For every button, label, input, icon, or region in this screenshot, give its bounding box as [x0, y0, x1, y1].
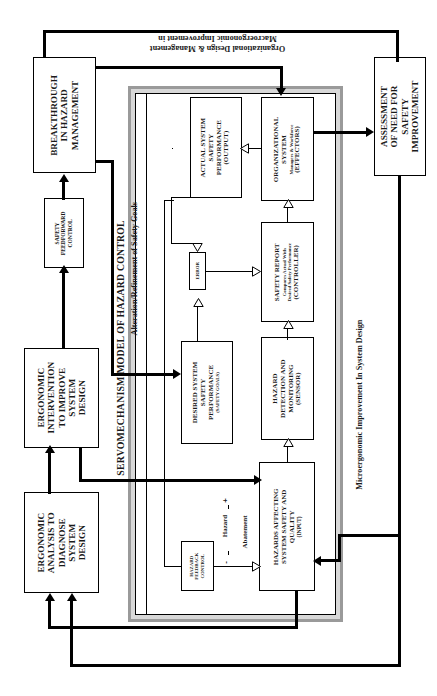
arrow-error-to-safety-report: [252, 266, 261, 277]
conn-hazard-feedback-loop-top: [164, 200, 174, 201]
arrow-bottom-feedback1-to-analysis: [45, 593, 55, 601]
box-organizational-system[interactable]: ORGANIZATIONAL SYSTEM Managers & Workfor…: [261, 97, 314, 201]
arrow-alteration-to-desired-system: [173, 369, 181, 379]
box-safety-feedforward-label: SAFETY FEEDFORWARD CONTROL: [55, 211, 74, 255]
servo-panel-inner-border-left: [146, 93, 147, 615]
box-error[interactable]: ERROR: [189, 252, 206, 290]
box-desired-system[interactable]: DESIRED SYSTEM SAFETY PERFORMANCE (SAFET…: [181, 341, 233, 444]
box-desired-system-line3: PERFORMANCE: [208, 362, 216, 424]
conn-bottom-feedback1-horizontal: [48, 626, 298, 629]
arrow-intervention-to-input: [254, 475, 262, 485]
conn-macro-vertical-down: [280, 66, 283, 90]
label-macroergonomic: Organizational Design & Management Macro…: [110, 33, 325, 53]
box-safety-report-line2: (CONTROLLER): [293, 243, 301, 302]
diagram-canvas: SERVOMECHANISM MODEL OF HAZARD CONTROL B…: [0, 0, 437, 696]
conn-error-to-safety-report: [206, 271, 256, 272]
conn-hazard-feedback-loop-bottom: [164, 566, 182, 567]
arrow-actual-to-error: [192, 243, 203, 252]
conn-bottom-feedback2-horizontal: [70, 664, 401, 667]
arrow-org-to-actual: [240, 143, 249, 154]
box-ergonomic-analysis[interactable]: ERGONOMIC ANALYSIS TO DIAGNOSE SYSTEM DE…: [24, 492, 99, 593]
conn-assessment-bottom-vertical: [398, 176, 401, 667]
box-safety-report-line1: SAFETY REPORT: [274, 243, 282, 302]
conn-assessment-to-top-vert: [396, 30, 399, 62]
conn-panel-to-assessment: [314, 131, 370, 134]
conn-alteration-vertical: [111, 160, 114, 376]
arrow-micro-to-input: [313, 556, 321, 566]
box-error-label: ERROR: [195, 262, 200, 280]
sign-plus: +: [221, 498, 230, 503]
box-hazard-detection-line4: (SENSOR): [295, 359, 303, 418]
box-organizational-system-text: ORGANIZATIONAL SYSTEM Managers & Workfor…: [273, 116, 302, 182]
arrow-detection-to-safety-report: [283, 320, 294, 329]
label-microergonomic: Microergonomic Improvement In System Des…: [355, 290, 364, 520]
conn-sign-tick-plus: [228, 505, 229, 509]
box-hazards-affecting-line4: (INPUT): [296, 488, 302, 565]
box-actual-system-text: ACTUAL SYSTEM SAFETY PERFORMANCE (OUTPUT…: [200, 118, 231, 178]
conn-actual-feedback-vert: [171, 197, 172, 244]
label-macroergonomic-line1: Macroergonomic Improvement in: [110, 33, 325, 43]
box-actual-system[interactable]: ACTUAL SYSTEM SAFETY PERFORMANCE (OUTPUT…: [190, 97, 242, 198]
arrow-panel-to-assessment: [366, 127, 374, 137]
box-organizational-system-line3: (EFFECTORS): [294, 116, 302, 182]
label-macroergonomic-line2: Organizational Design & Management: [110, 43, 325, 53]
arrow-feedback-to-input: [252, 561, 261, 572]
box-hazard-feedback-text: HAZARD FEEDBACK CONTROL: [189, 550, 205, 581]
label-hazard: Hazard: [221, 504, 229, 548]
conn-actual-down-vert: [172, 148, 173, 149]
box-safety-report[interactable]: SAFETY REPORT Compares Actual With Desir…: [261, 222, 314, 322]
box-actual-system-line4: (OUTPUT): [224, 118, 232, 178]
conn-intervention-to-input-horizontal: [79, 479, 257, 482]
conn-micro-horizontal-b: [320, 559, 341, 562]
arrow-bottom-feedback2-to-analysis: [67, 593, 77, 601]
box-ergonomic-analysis-label: ERGONOMIC ANALYSIS TO DIAGNOSE SYSTEM DE…: [36, 506, 87, 579]
box-ergonomic-intervention-label: ERGONOMIC INTERVENTION TO IMPROVE SYSTEM…: [36, 361, 87, 434]
box-ergonomic-intervention[interactable]: ERGONOMIC INTERVENTION TO IMPROVE SYSTEM…: [24, 348, 99, 448]
box-breakthrough[interactable]: BREAKTHROUGH IN HAZARD MANAGEMENT: [33, 57, 96, 173]
label-alteration: Alteration/Refinement of Safety Goals: [130, 169, 139, 369]
conn-micro-vertical: [338, 534, 341, 562]
conn-top-horizontal: [43, 30, 399, 33]
arrow-feedforward-to-breakthrough: [59, 174, 69, 182]
conn-org-to-actual: [248, 148, 262, 149]
box-hazards-affecting-line3: QUALITY: [288, 488, 296, 565]
box-hazards-affecting-text: HAZARDS AFFECTING SYSTEM SAFETY AND QUAL…: [272, 488, 302, 565]
conn-bottom-feedback1-up: [48, 601, 51, 629]
conn-intervention-right-down: [79, 448, 82, 481]
box-safety-report-text: SAFETY REPORT Compares Actual With Desir…: [274, 243, 301, 302]
box-hazard-detection-text: HAZARD DETECTION AND MONITORING (SENSOR): [272, 359, 303, 418]
box-hazard-detection[interactable]: HAZARD DETECTION AND MONITORING (SENSOR): [261, 337, 314, 440]
box-desired-system-text: DESIRED SYSTEM SAFETY PERFORMANCE (SAFET…: [193, 362, 222, 424]
sign-minus: -: [221, 561, 230, 564]
arrow-intervention-to-feedforward: [59, 265, 69, 273]
conn-actual-left-horizontal: [171, 197, 191, 198]
label-abatement: Abatement: [241, 504, 249, 560]
arrow-macro-to-organizational: [276, 88, 286, 96]
servo-panel-title: SERVOMECHANISM MODEL OF HAZARD CONTROL: [115, 226, 126, 476]
box-hazard-feedback[interactable]: HAZARD FEEDBACK CONTROL: [181, 541, 214, 591]
box-breakthrough-label: BREAKTHROUGH IN HAZARD MANAGEMENT: [49, 75, 80, 156]
conn-intervention-to-feedforward: [62, 272, 65, 348]
conn-feedforward-to-breakthrough: [62, 182, 65, 200]
conn-top-down-to-breakthrough: [43, 30, 46, 58]
arrow-safety-report-to-org: [283, 199, 294, 208]
conn-sign-tick-minus: [228, 551, 229, 555]
arrow-analysis-to-intervention: [45, 445, 55, 453]
conn-bottom-feedback2-up: [70, 601, 73, 667]
box-safety-feedforward[interactable]: SAFETY FEEDFORWARD CONTROL: [44, 198, 84, 268]
conn-micro-horizontal: [338, 534, 400, 537]
conn-feedback-to-input: [214, 566, 256, 567]
box-hazard-feedback-line3: CONTROL: [200, 550, 205, 581]
conn-input-bottom-vertical: [295, 591, 298, 629]
box-assessment[interactable]: ASSESSMENT OF NEED FOR SAFETY IMPROVEMEN…: [374, 57, 426, 176]
arrow-desired-to-error: [193, 298, 204, 307]
arrow-input-to-detection: [283, 438, 294, 447]
box-organizational-system-line2: SYSTEM: [281, 116, 289, 182]
conn-macro-horizontal: [96, 66, 283, 69]
conn-analysis-to-intervention: [48, 452, 51, 494]
conn-desired-up-vert: [197, 304, 198, 342]
box-hazards-affecting[interactable]: HAZARDS AFFECTING SYSTEM SAFETY AND QUAL…: [259, 462, 315, 591]
box-desired-system-line4: (SAFETY GOALS): [216, 362, 221, 424]
box-assessment-label: ASSESSMENT OF NEED FOR SAFETY IMPROVEMEN…: [379, 81, 420, 153]
conn-hazard-feedback-loop-vert: [164, 200, 165, 567]
